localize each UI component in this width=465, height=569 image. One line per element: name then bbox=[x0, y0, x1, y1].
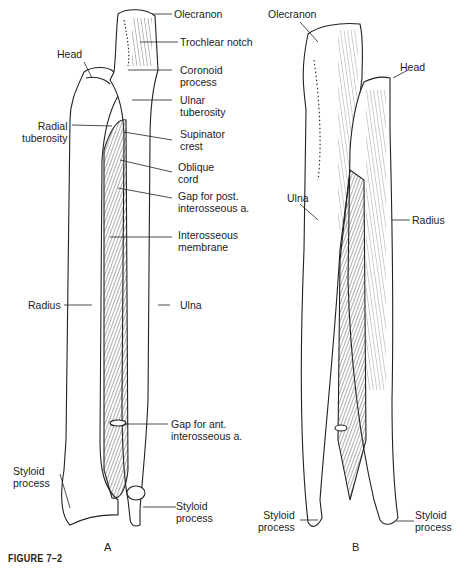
label-styloid-process-radius-a: Styloid process bbox=[13, 465, 50, 489]
label-gap-ant-interosseous: Gap for ant. interosseous a. bbox=[171, 418, 242, 442]
label-olecranon-a: Olecranon bbox=[174, 8, 222, 20]
label-ulnar-tuberosity: Ulnar tuberosity bbox=[180, 94, 226, 118]
label-supinator-crest: Supinator crest bbox=[180, 128, 225, 152]
label-interosseous-membrane: Interosseous membrane bbox=[178, 229, 238, 253]
forearm-diagram bbox=[0, 0, 465, 569]
label-radius-b: Radius bbox=[412, 214, 445, 226]
label-gap-post-interosseous: Gap for post. interosseous a. bbox=[178, 190, 249, 214]
label-trochlear-notch: Trochlear notch bbox=[180, 36, 253, 48]
label-radial-tuberosity: Radial tuberosity bbox=[22, 120, 68, 144]
figure-caption: FIGURE 7–2 bbox=[8, 553, 62, 564]
label-oblique-cord: Oblique cord bbox=[178, 161, 214, 185]
label-radius-a: Radius bbox=[28, 299, 61, 311]
label-ulna-a: Ulna bbox=[180, 299, 202, 311]
label-styloid-process-radius-b: Styloid process bbox=[415, 509, 452, 533]
panel-letter-b: B bbox=[352, 541, 359, 553]
label-head-b: Head bbox=[400, 61, 425, 73]
label-styloid-process-ulna-b: Styloid process bbox=[258, 509, 295, 533]
label-head-a: Head bbox=[57, 48, 82, 60]
panel-b-drawing bbox=[300, 22, 414, 526]
panel-letter-a: A bbox=[104, 541, 111, 553]
label-ulna-b: Ulna bbox=[287, 192, 309, 204]
panel-a-drawing bbox=[60, 10, 178, 526]
interosseous-membrane-a bbox=[104, 120, 128, 498]
label-olecranon-b: Olecranon bbox=[268, 8, 316, 20]
label-coronoid-process: Coronoid process bbox=[180, 64, 223, 88]
label-styloid-process-ulna-a: Styloid process bbox=[176, 500, 213, 524]
